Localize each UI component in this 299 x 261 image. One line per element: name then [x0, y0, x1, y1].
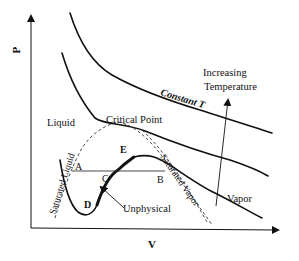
- point-e-label: E: [120, 144, 127, 155]
- y-axis-label: P: [10, 46, 22, 53]
- critical-point-label: Critical Point: [106, 114, 162, 125]
- pv-diagram: P V Constant T Increasing Temperature Cr…: [0, 0, 299, 261]
- point-d-label: D: [84, 199, 91, 210]
- increasing-temperature-label-2: Temperature: [204, 81, 257, 92]
- x-axis: [31, 228, 278, 230]
- constant-t-label: Constant T: [159, 86, 207, 110]
- saturated-liquid-label: Saturated Liquid: [47, 152, 76, 216]
- point-a-label: A: [75, 161, 83, 172]
- x-axis-label: V: [148, 238, 156, 250]
- point-b-label: B: [157, 174, 164, 185]
- vapor-label: Vapor: [227, 193, 253, 204]
- saturated-vapor-label: Saturated Vapor: [158, 152, 202, 208]
- liquid-label: Liquid: [47, 117, 76, 128]
- increasing-temperature-label-1: Increasing: [203, 67, 247, 78]
- unphysical-label: Unphysical: [123, 203, 171, 214]
- point-c-label: C: [102, 173, 109, 184]
- unphysical-pointer-arrow: [101, 187, 124, 208]
